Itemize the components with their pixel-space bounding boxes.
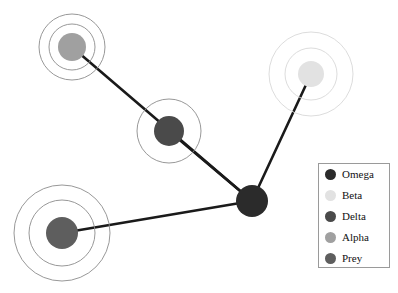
node-layer	[46, 33, 324, 249]
legend-label: Alpha	[342, 232, 369, 243]
legend-swatch-icon	[325, 211, 336, 222]
legend-item-delta[interactable]: Delta	[319, 206, 389, 227]
legend-label: Prey	[342, 253, 362, 264]
graph-node-n-bottom-left[interactable]	[46, 217, 78, 249]
legend: OmegaBetaDeltaAlphaPrey	[318, 163, 390, 268]
legend-item-beta[interactable]: Beta	[319, 185, 389, 206]
graph-node-n-top-right[interactable]	[298, 61, 324, 87]
graph-node-hub[interactable]	[236, 185, 268, 217]
legend-swatch-icon	[325, 253, 336, 264]
graph-edge	[252, 74, 311, 201]
legend-item-prey[interactable]: Prey	[319, 248, 389, 269]
graph-edge	[169, 131, 252, 201]
legend-item-alpha[interactable]: Alpha	[319, 227, 389, 248]
legend-swatch-icon	[325, 190, 336, 201]
graph-node-n-middle[interactable]	[154, 116, 184, 146]
network-graph-figure: OmegaBetaDeltaAlphaPrey	[0, 0, 398, 293]
legend-label: Beta	[342, 190, 362, 201]
graph-node-n-top-left[interactable]	[58, 33, 86, 61]
legend-swatch-icon	[325, 169, 336, 180]
legend-item-omega[interactable]: Omega	[319, 164, 389, 185]
legend-label: Omega	[342, 169, 374, 180]
edge-layer	[62, 47, 311, 233]
legend-swatch-icon	[325, 232, 336, 243]
legend-label: Delta	[342, 211, 366, 222]
